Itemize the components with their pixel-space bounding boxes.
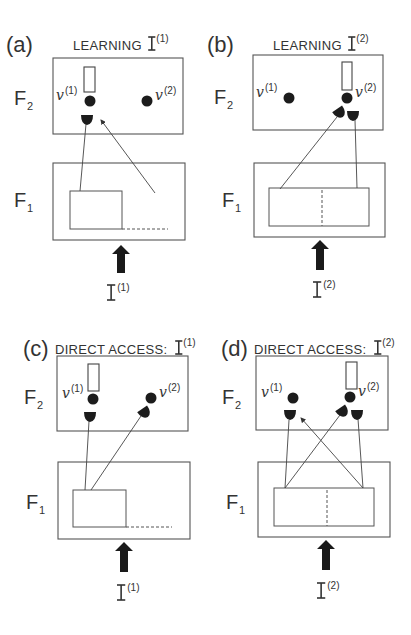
node-dot-icon (345, 392, 356, 403)
adaptive-pathway (285, 415, 340, 488)
title-input-index: (1) (156, 33, 168, 44)
synapse-cup-icon (332, 105, 348, 120)
synapse-cup-icon (335, 404, 351, 419)
input-arrow-icon (115, 542, 133, 572)
f2-node-v1: v(1) (56, 67, 96, 107)
node-index: (2) (168, 382, 180, 393)
layer-label-f2: F (214, 86, 226, 108)
f1-pattern-box (73, 490, 126, 527)
layer-label-f1: F (26, 491, 38, 513)
synapse-cup-icon (347, 111, 359, 121)
f1-pattern-box (269, 188, 369, 226)
panel-a: (a)LEARNING(1)F2F1v(1)v(2)(1) (6, 32, 185, 300)
node-label: v (56, 87, 64, 103)
title-input-glyph (348, 37, 355, 50)
f1-pattern-box (274, 488, 374, 526)
node-index: (1) (71, 383, 83, 394)
layer-sub-f1: 1 (239, 504, 245, 516)
f1-layer-box (53, 163, 185, 240)
node-dot-icon (88, 394, 99, 405)
title-input-glyph (148, 37, 155, 50)
title-input-glyph (175, 341, 182, 354)
layer-sub-f2: 2 (235, 399, 241, 411)
f2-layer-box (256, 356, 388, 430)
adaptive-pathway (91, 416, 141, 490)
node-label: v (256, 84, 264, 100)
layer-label-f1: F (222, 189, 234, 211)
title-input-index: (2) (382, 337, 394, 348)
input-arrow-icon (311, 240, 329, 270)
activation-bar (342, 62, 352, 90)
panel-title: DIRECT ACCESS: (55, 342, 167, 357)
f2-node-v2: v(2) (146, 382, 181, 404)
f2-layer-box (53, 58, 183, 134)
node-label: v (155, 87, 163, 103)
node-dot-icon (85, 96, 96, 107)
f2-node-v1: v(1) (62, 364, 99, 405)
node-index: (2) (367, 381, 379, 392)
node-dot-icon (284, 93, 295, 104)
title-input-glyph (374, 341, 381, 354)
title-input-index: (2) (356, 33, 368, 44)
learning-pathway-arrow (101, 120, 155, 193)
panel-letter: (a) (6, 32, 33, 57)
layer-sub-f1: 1 (27, 202, 33, 214)
art-network-diagram: (a)LEARNING(1)F2F1v(1)v(2)(1)(b)LEARNING… (0, 0, 411, 635)
panel-b: (b)LEARNING(2)F2F1v(1)v(2)(2) (207, 32, 385, 297)
synapse-cup-icon (81, 115, 93, 125)
layer-sub-f2: 2 (37, 399, 43, 411)
activation-bar (88, 364, 99, 391)
layer-label-f2: F (24, 386, 36, 408)
layer-sub-f2: 2 (227, 99, 233, 111)
input-index: (2) (327, 580, 339, 591)
node-label: v (62, 385, 70, 401)
node-dot-icon (142, 96, 153, 107)
adaptive-pathway (280, 117, 337, 189)
panel-title: LEARNING (273, 38, 342, 53)
input-arrow-icon (317, 540, 335, 570)
input-arrow-icon (112, 245, 130, 273)
input-glyph (117, 585, 125, 600)
node-dot-icon (342, 93, 353, 104)
panel-d: (d)DIRECT ACCESS:(2)F2F1v(1)v(2)(2) (221, 336, 395, 598)
layer-sub-f1: 1 (235, 202, 241, 214)
input-index: (2) (323, 279, 335, 290)
panel-letter: (b) (207, 32, 234, 57)
f2-node-v1: v(1) (261, 362, 357, 404)
node-label: v (355, 84, 363, 100)
layer-label-f2: F (14, 87, 26, 109)
learning-pathway-arrow (301, 418, 363, 488)
layer-sub-f2: 2 (27, 100, 33, 112)
layer-label-f2: F (222, 386, 234, 408)
node-label: v (358, 383, 366, 399)
node-dot-icon (288, 393, 299, 404)
panel-letter: (d) (221, 336, 248, 361)
node-index: (1) (270, 382, 282, 393)
title-input-index: (1) (183, 337, 195, 348)
panel-letter: (c) (23, 336, 49, 361)
f2-node-v2: v(2) (142, 85, 177, 107)
synapse-cup-icon (351, 410, 363, 420)
layer-label-f1: F (226, 491, 238, 513)
node-index: (2) (364, 82, 376, 93)
synapse-cup-icon (84, 412, 96, 422)
panels: (a)LEARNING(1)F2F1v(1)v(2)(1)(b)LEARNING… (6, 32, 395, 600)
adaptive-pathway (358, 419, 363, 488)
input-index: (1) (127, 582, 139, 593)
activation-bar (346, 362, 357, 389)
layer-label-f1: F (14, 189, 26, 211)
input-glyph (107, 285, 115, 300)
node-label: v (159, 384, 167, 400)
node-dot-icon (146, 393, 157, 404)
f2-node-v1: v(1) (256, 62, 352, 104)
panel-title: LEARNING (73, 38, 142, 53)
activation-bar (84, 67, 95, 92)
input-glyph (317, 583, 325, 598)
panel-c: (c)DIRECT ACCESS:(1)F2F1v(1)v(2)(1) (23, 336, 196, 600)
panel-title: DIRECT ACCESS: (254, 342, 366, 357)
layer-sub-f1: 1 (39, 504, 45, 516)
node-index: (2) (164, 85, 176, 96)
f1-pattern-box (70, 191, 122, 229)
input-index: (1) (117, 282, 129, 293)
node-label: v (261, 384, 269, 400)
